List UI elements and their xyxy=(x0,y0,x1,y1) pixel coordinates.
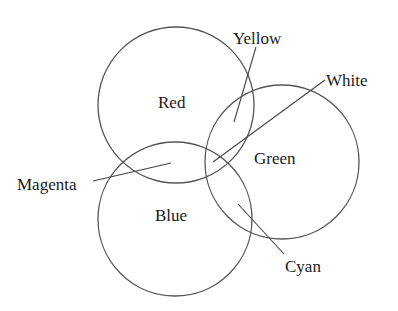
blue-label: Blue xyxy=(155,206,187,225)
magenta-label: Magenta xyxy=(17,175,77,194)
cyan-label: Cyan xyxy=(285,257,321,276)
yellow-leader-line xyxy=(234,47,256,122)
venn-diagram: Red Green Blue Yellow White Magenta Cyan xyxy=(0,0,398,311)
white-label: White xyxy=(326,71,368,90)
magenta-leader-line xyxy=(93,163,171,181)
yellow-label: Yellow xyxy=(233,29,282,48)
red-label: Red xyxy=(158,93,186,112)
green-label: Green xyxy=(254,149,296,168)
